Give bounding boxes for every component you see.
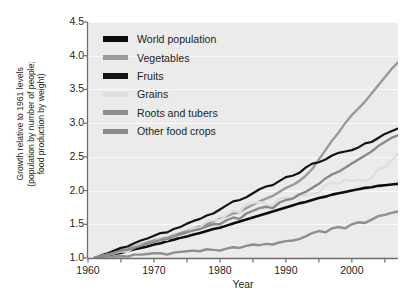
- legend-label: Fruits: [137, 70, 163, 82]
- legend-item: Roots and tubers: [103, 104, 263, 122]
- y-tick-label: 2.0: [44, 184, 84, 196]
- legend-label: Roots and tubers: [137, 107, 218, 119]
- x-tick-label: 1990: [264, 264, 308, 276]
- y-tick-label: 1.0: [44, 251, 84, 263]
- legend-label: Vegetables: [137, 52, 189, 64]
- legend-item: Grains: [103, 85, 263, 103]
- legend-item: Vegetables: [103, 48, 263, 66]
- legend-swatch: [103, 73, 128, 79]
- legend-label: Grains: [137, 88, 168, 100]
- y-tick-label: 4.5: [44, 15, 84, 27]
- legend-swatch: [103, 110, 128, 115]
- x-tick-label: 1960: [66, 264, 110, 276]
- y-axis-tick-labels: 1.01.52.02.53.03.54.04.5: [42, 22, 84, 258]
- legend-swatch: [103, 36, 128, 42]
- y-tick-label: 4.0: [44, 49, 84, 61]
- x-tick-label: 1980: [198, 264, 242, 276]
- y-tick-label: 3.0: [44, 116, 84, 128]
- y-tick-label: 1.5: [44, 217, 84, 229]
- legend-swatch: [103, 92, 128, 97]
- y-tick-label: 3.5: [44, 82, 84, 94]
- legend-label: World population: [137, 33, 216, 45]
- legend-item: Fruits: [103, 67, 263, 85]
- legend-label: Other food crops: [137, 125, 216, 137]
- legend-item: Other food crops: [103, 122, 263, 140]
- x-tick-label: 2000: [330, 264, 374, 276]
- x-axis-tick-labels: 19601970198019902000: [88, 262, 398, 278]
- x-axis-label: Year: [88, 278, 398, 290]
- legend-swatch: [103, 129, 128, 134]
- legend-item: World population: [103, 30, 263, 48]
- x-tick-label: 1970: [132, 264, 176, 276]
- y-tick-label: 2.5: [44, 150, 84, 162]
- legend-swatch: [103, 55, 128, 60]
- chart-figure: Growth relative to 1961 levels (populati…: [0, 0, 418, 296]
- chart-legend: World populationVegetablesFruitsGrainsRo…: [103, 30, 263, 140]
